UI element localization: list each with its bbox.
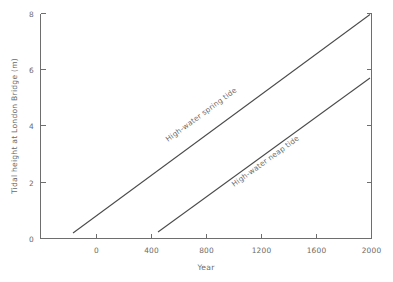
y-tick-marks: [41, 14, 46, 239]
y-tick-label-2: 2: [29, 179, 34, 188]
x-tick-label-1600: 1600: [307, 246, 327, 255]
x-tick-marks: [97, 234, 372, 239]
x-axis-title: Year: [196, 263, 215, 272]
x-tick-label-0: 0: [94, 246, 99, 255]
series-annotation-neap-tide: High-water neap tide: [230, 134, 301, 189]
tidal-height-line-chart: 8 6 4 2 0 0 400 800 1200 1600 2000 Tidal…: [0, 0, 393, 282]
series-line-neap-tide: [158, 78, 370, 232]
data-series: [73, 15, 370, 234]
x-tick-label-1200: 1200: [252, 246, 272, 255]
y-tick-marks-right: [367, 14, 372, 183]
x-tick-label-2000: 2000: [362, 246, 382, 255]
series-line-spring-tide: [73, 15, 370, 234]
y-axis-title: Tidal height at London Bridge (m): [10, 58, 19, 195]
y-axis-left-line: [41, 14, 372, 239]
x-tick-label-800: 800: [199, 246, 214, 255]
y-tick-labels: 8 6 4 2 0: [29, 10, 34, 244]
figure-container: 8 6 4 2 0 0 400 800 1200 1600 2000 Tidal…: [0, 0, 393, 282]
y-tick-label-8: 8: [29, 10, 34, 19]
x-tick-label-400: 400: [144, 246, 159, 255]
y-tick-label-0: 0: [29, 235, 34, 244]
axes-frame: [41, 14, 372, 239]
x-tick-labels: 0 400 800 1200 1600 2000: [94, 246, 381, 255]
series-annotation-spring-tide: High-water spring tide: [164, 85, 239, 143]
y-tick-label-4: 4: [29, 122, 34, 131]
y-tick-label-6: 6: [29, 66, 34, 75]
